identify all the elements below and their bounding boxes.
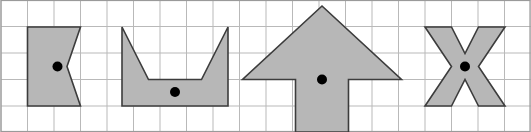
centroid-dot-2: [170, 87, 180, 97]
figure-canvas: [0, 0, 531, 132]
centroid-dot-3: [317, 75, 327, 85]
centroid-dot-1: [53, 62, 63, 72]
figure-container: [0, 0, 531, 132]
centroid-dot-4: [460, 62, 470, 72]
